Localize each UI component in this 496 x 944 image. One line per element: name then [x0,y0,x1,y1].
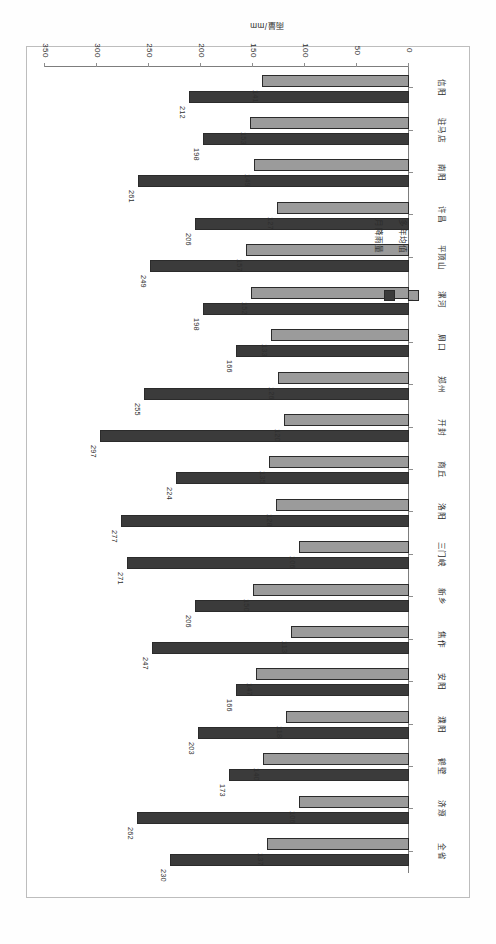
bar-value-label: 212 [178,106,186,119]
bar-long-term-average [276,499,409,511]
bar-value-label: 224 [165,487,173,500]
bar-value-label: 149 [243,175,251,188]
value-tick [96,63,97,67]
category-tick [409,214,413,215]
category-label: 洛阳 [437,489,448,535]
bar-value-label: 140 [252,768,260,781]
bar-month-rainfall [203,303,409,315]
bar-value-label: 118 [275,726,283,738]
bar-value-label: 206 [184,615,192,628]
bar-long-term-average [250,117,409,129]
bar-value-label: 277 [110,530,118,543]
bar-value-label: 230 [159,869,167,882]
category-tick [409,299,413,300]
bar-group: 249157 [45,237,409,279]
bar-value-label: 206 [184,233,192,246]
bar-month-rainfall [198,727,409,739]
category-label: 信阳 [437,65,448,111]
bar-value-label: 262 [126,827,134,840]
bar-group: 277128 [45,491,409,533]
value-tick-label: 100 [301,40,310,62]
bar-value-label: 120 [273,429,281,442]
legend-label: 多年均值 [398,219,409,253]
category-tick [409,681,413,682]
category-label: 鹤壁 [437,743,448,789]
bar-group: 261149 [45,152,409,194]
value-tick [148,63,149,67]
legend-item: 多年均值 [401,217,423,301]
value-tick-label: 200 [197,40,206,62]
bar-group: 198153 [45,110,409,152]
category-tick [409,342,413,343]
value-tick [356,63,357,67]
category-label: 漯河 [437,277,448,323]
value-axis-title: 雨量/mm [250,21,284,33]
bar-value-label: 249 [139,275,147,288]
bar-value-label: 166 [225,699,233,712]
bar-value-label: 173 [218,784,226,797]
category-label: 新乡 [437,574,448,620]
bar-month-rainfall [189,91,409,103]
category-tick [409,808,413,809]
bar-long-term-average [299,541,409,553]
legend-item: 月降雨量 [377,217,399,301]
bar-month-rainfall [170,854,409,866]
value-tick-label: 50 [353,40,362,62]
bar-long-term-average [284,414,409,426]
bar-value-label: 147 [245,683,253,696]
category-label: 郑州 [437,362,448,408]
chart-legend: 多年均值月降雨量 [371,217,423,301]
bar-value-label: 126 [267,387,275,400]
bar-month-rainfall [138,176,409,188]
category-tick [409,87,413,88]
category-label: 濮阳 [437,701,448,747]
chart-frame: 2301372621061731402031181661472471132061… [26,46,470,898]
bar-value-label: 127 [266,217,274,230]
bar-group: 166133 [45,322,409,364]
category-tick [409,130,413,131]
category-tick [409,511,413,512]
value-tick [252,63,253,67]
value-tick [304,63,305,67]
bar-group: 262106 [45,788,409,830]
bar-value-label: 141 [251,90,259,103]
bar-group: 271106 [45,534,409,576]
category-tick [409,427,413,428]
bar-month-rainfall [176,472,409,484]
bar-month-rainfall [100,430,409,442]
bar-month-rainfall [203,133,409,145]
bar-month-rainfall [127,557,409,569]
plot-area: 2301372621061731402031181661472471132061… [45,67,409,873]
category-label: 三门峡 [437,531,448,577]
bar-value-label: 152 [240,302,248,315]
bar-value-label: 247 [141,657,149,670]
legend-swatch [384,290,395,301]
category-label: 许昌 [437,192,448,238]
bar-value-label: 113 [280,641,288,653]
bar-long-term-average [269,456,409,468]
category-label: 焦作 [437,616,448,662]
category-tick [409,639,413,640]
bar-long-term-average [277,202,409,214]
category-label: 南阳 [437,150,448,196]
bar-value-label: 166 [225,360,233,373]
bar-long-term-average [291,626,409,638]
bar-value-label: 203 [187,742,195,755]
category-tick [409,724,413,725]
category-label: 驻马店 [437,107,448,153]
value-tick [408,63,409,67]
bar-value-label: 255 [133,403,141,416]
value-tick-label: 300 [93,40,102,62]
bar-long-term-average [286,711,409,723]
value-tick-label: 0 [405,40,414,62]
category-label: 开封 [437,404,448,450]
bar-value-label: 261 [127,191,135,204]
bar-value-label: 137 [256,853,264,866]
bar-value-label: 157 [235,259,243,272]
value-tick-label: 150 [249,40,258,62]
bar-group: 224135 [45,449,409,491]
category-label: 济源 [437,786,448,832]
bar-long-term-average [256,668,409,680]
category-label: 平顶山 [437,234,448,280]
bar-group: 166147 [45,661,409,703]
